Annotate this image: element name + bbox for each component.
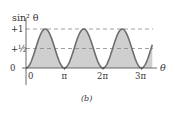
x-tick-label-pi: π — [62, 71, 68, 81]
x-tick-label-2pi: 2π — [97, 71, 108, 81]
figure-caption: (b) — [81, 94, 92, 103]
y-axis-label: sin² θ — [12, 12, 39, 23]
x-tick-label-3pi: 3π — [135, 71, 146, 81]
y-tick-label-half: +½ — [11, 44, 26, 54]
y-tick-label-one: +1 — [11, 24, 24, 34]
x-tick-label-zero: 0 — [28, 71, 33, 81]
sin-squared-plot: sin² θ +1 +½ 0 0 π 2π 3π θ (b) — [0, 0, 175, 113]
x-axis-label: θ — [160, 62, 166, 73]
y-tick-label-zero: 0 — [10, 63, 15, 73]
